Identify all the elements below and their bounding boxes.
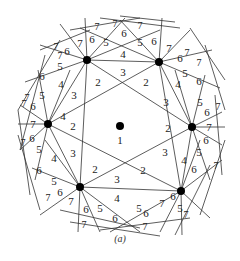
region-label: 6	[143, 207, 149, 219]
figure-caption: (a)	[114, 233, 126, 245]
vertex-dot-top-left	[83, 56, 91, 64]
region-label: 2	[165, 122, 171, 134]
region-label: 2	[70, 120, 76, 132]
region-label: 7	[21, 137, 26, 148]
region-label: 6	[177, 52, 183, 64]
region-label: 7	[185, 47, 190, 58]
region-label: 7	[206, 121, 212, 133]
region-label: 7	[58, 50, 63, 61]
region-label: 6	[29, 132, 35, 144]
region-label: 5	[137, 36, 143, 48]
region-label: 7	[46, 192, 51, 203]
region-label: 6	[112, 212, 118, 224]
region-label: 6	[89, 33, 95, 45]
region-label: 4	[114, 192, 120, 204]
region-label: 4	[175, 78, 181, 90]
region-label: 5	[197, 96, 203, 108]
region-label: 5	[177, 202, 183, 214]
region-label: 5	[182, 67, 188, 79]
region-label: 6	[196, 75, 202, 87]
region-label: 2	[95, 76, 101, 88]
region-label: 6	[36, 164, 42, 176]
region-label: 7	[68, 195, 74, 207]
region-label: 7	[184, 209, 189, 220]
vertex-dot-bottom-right	[177, 187, 185, 195]
region-label: 4	[181, 154, 187, 166]
region-label: 5	[196, 146, 202, 158]
region-label: 7	[30, 118, 36, 130]
region-label: 7	[159, 197, 165, 209]
region-label: 2	[140, 164, 146, 176]
region-label: 7	[113, 18, 118, 29]
region-label: 3	[120, 66, 126, 78]
region-label: 5	[136, 202, 142, 214]
region-label: 2	[92, 163, 98, 175]
region-label: 7	[143, 221, 148, 232]
region-label: 3	[70, 147, 76, 159]
region-label: 4	[120, 48, 126, 60]
region-label: 7	[22, 98, 27, 109]
region-label: 5	[97, 202, 103, 214]
region-label: 4	[60, 110, 66, 122]
region-label: 4	[51, 152, 57, 164]
region-label: 3	[162, 146, 168, 158]
region-label: 6	[203, 134, 209, 146]
region-label: 6	[57, 186, 63, 198]
region-label: 6	[191, 163, 197, 175]
vertex-dot-left	[44, 120, 52, 128]
vertex-dot-bottom-left	[76, 183, 84, 191]
region-label: 5	[39, 89, 45, 101]
region-label: 2	[143, 76, 149, 88]
region-label: 7	[214, 160, 219, 171]
region-label: 6	[170, 190, 176, 202]
region-label: 6	[83, 203, 89, 215]
region-label: 7	[166, 42, 172, 54]
region-label: 7	[197, 57, 202, 68]
center-dot	[116, 122, 124, 130]
region-label: 3	[71, 89, 77, 101]
region-label: 7	[138, 20, 143, 31]
region-label: 7	[95, 21, 100, 32]
region-label: 6	[64, 45, 70, 57]
vertex-dot-right	[188, 123, 196, 131]
vertex-dot-top-right	[155, 58, 163, 66]
region-label: 5	[103, 36, 109, 48]
region-label: 1	[117, 134, 123, 146]
region-label: 7	[216, 101, 221, 112]
region-label: 6	[151, 35, 157, 47]
region-label: 5	[57, 60, 63, 72]
region-label: 6	[30, 100, 36, 112]
region-label: 3	[163, 96, 169, 108]
region-label: 6	[204, 106, 210, 118]
region-label: 4	[58, 78, 64, 90]
region-label: 5	[36, 143, 42, 155]
region-label: 6	[121, 27, 127, 39]
region-label: 7	[77, 37, 83, 49]
region-label: 6	[39, 70, 45, 82]
hexagonal-region-diagram: 1232323232323444444455555555555566666666…	[0, 0, 240, 261]
region-label: 3	[114, 173, 120, 185]
region-label: 7	[82, 219, 87, 230]
